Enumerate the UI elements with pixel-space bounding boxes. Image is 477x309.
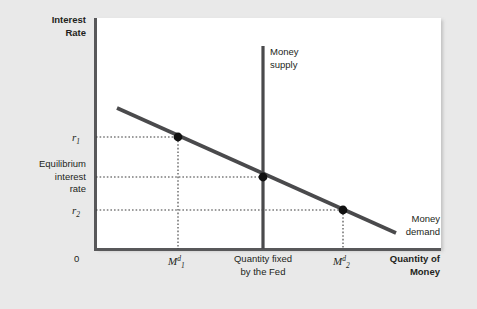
y-tick-label-r2: r2 bbox=[72, 204, 80, 219]
point-r1 bbox=[174, 133, 183, 142]
origin-label: 0 bbox=[74, 253, 79, 264]
point-r2 bbox=[339, 206, 348, 215]
money-demand-label: Money demand bbox=[376, 213, 440, 238]
x-axis-label: Quantity of Money bbox=[372, 253, 440, 278]
x-tick-label-m2d: Md2 bbox=[333, 254, 350, 270]
y-tick-label-r1: r1 bbox=[72, 131, 80, 146]
x-tick-label-m1d: Md1 bbox=[168, 254, 185, 270]
money-demand-curve bbox=[117, 108, 396, 233]
money-supply-label: Money supply bbox=[270, 46, 340, 71]
y-axis-label: Interest Rate bbox=[8, 14, 86, 39]
money-market-figure: Interest Rate r1 Equilibrium interest ra… bbox=[0, 0, 477, 309]
x-tick-label-quantity-fixed: Quantity fixed by the Fed bbox=[212, 253, 314, 278]
point-equilibrium bbox=[259, 173, 268, 182]
y-tick-label-equilibrium: Equilibrium interest rate bbox=[10, 158, 86, 196]
